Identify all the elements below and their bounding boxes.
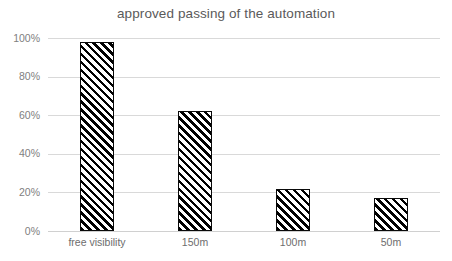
y-tick-label: 100%: [0, 33, 40, 44]
gridline-0pct: [48, 231, 440, 232]
bar-50m: [374, 198, 408, 231]
bar-free-visibility: [80, 42, 114, 231]
y-tick-label: 0%: [0, 226, 40, 237]
y-axis: 0%20%40%60%80%100%: [0, 38, 44, 231]
y-tick-label: 20%: [0, 187, 40, 198]
y-tick-label: 60%: [0, 110, 40, 121]
x-tick-label: 50m: [342, 236, 440, 249]
y-tick-label: 80%: [0, 71, 40, 82]
x-tick-label: free visibility: [48, 236, 146, 249]
bar-chart: approved passing of the automation 0%20%…: [0, 0, 452, 261]
gridline-100pct: [48, 38, 440, 39]
chart-title: approved passing of the automation: [0, 6, 452, 22]
x-tick-label: 100m: [244, 236, 342, 249]
x-tick-label: 150m: [146, 236, 244, 249]
y-tick-label: 40%: [0, 148, 40, 159]
bar-150m: [178, 111, 212, 231]
x-axis: free visibility150m100m50m: [48, 236, 440, 254]
bar-100m: [276, 189, 310, 231]
plot-area: [48, 38, 440, 231]
